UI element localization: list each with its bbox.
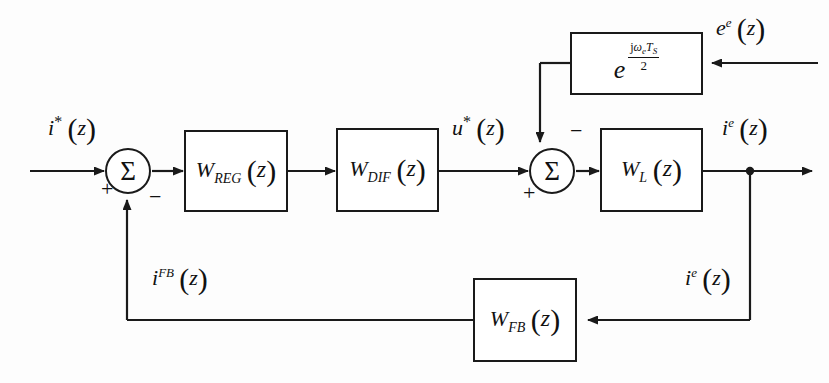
- block-w-dif-label: WDIF (z): [349, 153, 426, 187]
- block-w-reg[interactable]: WREG (z): [184, 130, 288, 212]
- signal-label-output-current-branch: ie (z): [685, 262, 731, 296]
- block-delay-exponential-label: ejωeTS2: [614, 47, 660, 81]
- signal-label-output-current: ie (z): [722, 112, 768, 146]
- block-w-reg-label: WREG (z): [196, 154, 276, 188]
- signal-label-back-emf: ee (z): [716, 12, 765, 46]
- signal-label-reference-current: i* (z): [48, 112, 96, 146]
- block-delay-exponential[interactable]: ejωeTS2: [570, 32, 703, 95]
- summer-1-symbol: Σ: [120, 156, 136, 187]
- summer-1-minus-sign: −: [149, 184, 161, 210]
- signal-label-feedback-current: iFB (z): [152, 262, 208, 296]
- block-w-l-label: WL (z): [621, 153, 682, 187]
- block-w-fb[interactable]: WFB (z): [473, 278, 577, 362]
- block-w-l[interactable]: WL (z): [600, 128, 703, 212]
- summer-2-plus-sign: +: [523, 180, 535, 206]
- summer-2[interactable]: Σ: [529, 148, 575, 194]
- summer-2-minus-sign: −: [570, 118, 582, 144]
- signal-label-control-voltage: u* (z): [452, 112, 505, 146]
- summer-1-plus-sign: +: [101, 176, 113, 202]
- summer-2-symbol: Σ: [544, 156, 560, 187]
- block-w-dif[interactable]: WDIF (z): [336, 128, 439, 212]
- block-diagram-canvas: WREG (z) WDIF (z) WL (z) WFB (z) ejωeTS2…: [0, 0, 829, 383]
- block-w-fb-label: WFB (z): [490, 303, 560, 337]
